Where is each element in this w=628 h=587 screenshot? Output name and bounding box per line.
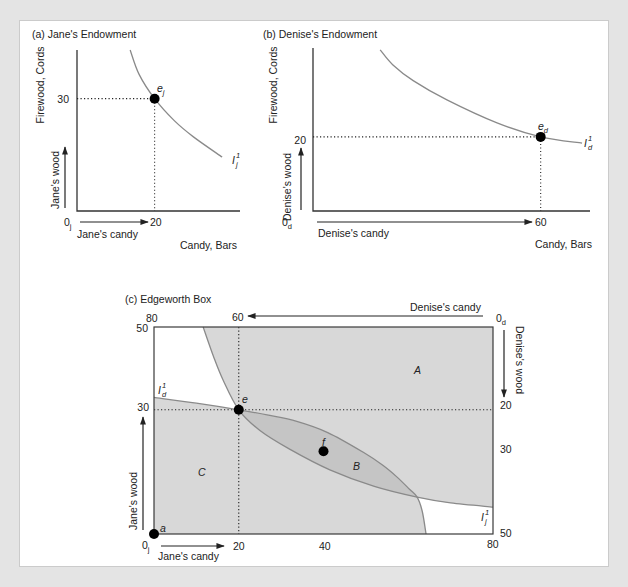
allocation-point-e xyxy=(234,405,244,415)
jane-y-direction-label: Jane's wood xyxy=(127,472,139,530)
x-direction-label: Denise's candy xyxy=(318,227,390,239)
y-direction-label: Jane's wood xyxy=(49,151,61,209)
denise-x-direction-label: Denise's candy xyxy=(410,301,482,313)
y-direction-label: Denise's wood xyxy=(281,153,293,221)
region-label-c: C xyxy=(198,466,206,478)
denise-y-direction-label: Denise's wood xyxy=(514,326,526,394)
jane-x-tick-label: 20 xyxy=(233,540,245,552)
chart-title: (b) Denise's Endowment xyxy=(263,28,377,40)
denise-y-tick-label: 20 xyxy=(500,399,512,411)
jane-y-tick-label: 30 xyxy=(137,401,149,413)
x-direction-label: Jane's candy xyxy=(77,228,139,240)
jane-x-direction-label: Jane's candy xyxy=(158,550,220,562)
y-axis-label: Firewood, Cords xyxy=(267,46,279,123)
y-tick-label: 30 xyxy=(57,93,69,105)
denise-y-tick-label: 50 xyxy=(500,527,512,539)
region-label-b: B xyxy=(353,460,360,472)
chart-title: (c) Edgeworth Box xyxy=(125,293,212,305)
jane-x-tick-label: 80 xyxy=(487,538,499,550)
jane-y-tick-label: 50 xyxy=(136,322,148,334)
y-axis-label: Firewood, Cords xyxy=(34,46,46,123)
figure-page: (a) Jane's Endowment Firewood, Cords Jan… xyxy=(0,0,628,587)
x-axis-label: Candy, Bars xyxy=(535,238,592,250)
allocation-point-a xyxy=(149,529,159,539)
point-label-a: a xyxy=(160,522,166,534)
endowment-point xyxy=(150,94,160,104)
x-tick-label: 60 xyxy=(535,216,547,228)
point-label-e: e xyxy=(242,393,248,405)
y-tick-label: 20 xyxy=(294,134,306,146)
denise-x-tick-label: 60 xyxy=(232,311,244,323)
panel-c-edgeworth-box: (c) Edgeworth Box 80 60 Denise's candy 0… xyxy=(125,293,526,562)
endowment-and-edgeworth-box-figure: (a) Jane's Endowment Firewood, Cords Jan… xyxy=(0,0,628,587)
denise-y-tick-label: 30 xyxy=(500,443,512,455)
region-label-a: A xyxy=(413,364,421,376)
x-axis-label: Candy, Bars xyxy=(180,239,237,251)
jane-x-tick-label: 40 xyxy=(319,540,331,552)
chart-title: (a) Jane's Endowment xyxy=(32,28,136,40)
x-tick-label: 20 xyxy=(150,216,162,228)
